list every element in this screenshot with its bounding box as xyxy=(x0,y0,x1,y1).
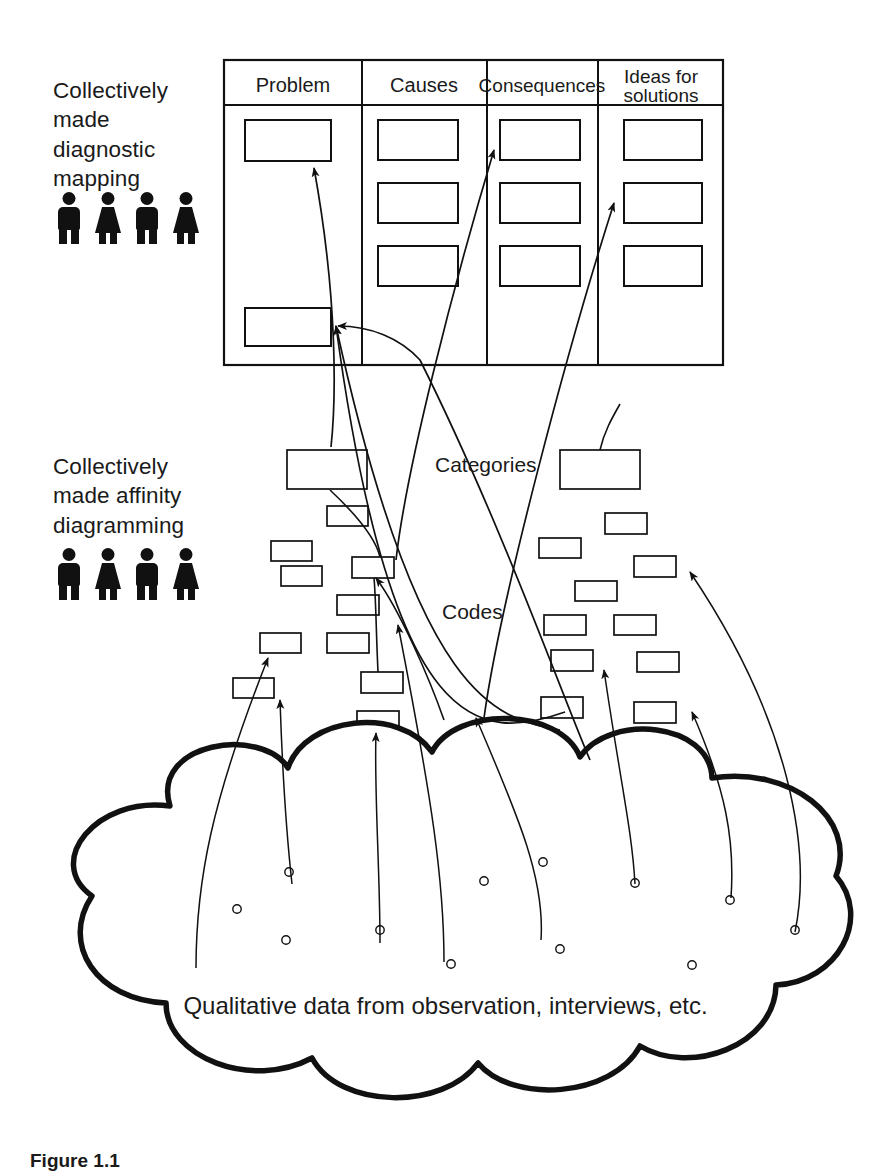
people-group-affinity xyxy=(54,548,201,600)
people-group-diagnostic xyxy=(54,192,201,244)
matrix-header-consequences: Consequences xyxy=(479,75,606,96)
code-box xyxy=(634,702,676,723)
code-box xyxy=(260,633,301,653)
person-icon-man xyxy=(54,192,84,244)
code-box xyxy=(327,633,369,653)
code-box xyxy=(361,672,403,693)
code-box xyxy=(614,615,656,635)
label-collective-affinity-diagramming: Collectively made affinity diagramming xyxy=(53,452,228,540)
code-box xyxy=(634,556,676,577)
matrix-sticky-note xyxy=(500,246,580,286)
code-box xyxy=(352,557,394,578)
person-icon-man xyxy=(54,548,84,600)
person-icon-man xyxy=(132,548,162,600)
code-box xyxy=(337,595,379,615)
person-icon-man xyxy=(132,192,162,244)
category-box xyxy=(560,450,640,489)
code-box xyxy=(281,566,322,586)
matrix-sticky-note xyxy=(378,120,458,160)
matrix-sticky-note xyxy=(500,120,580,160)
qualitative-data-cloud xyxy=(73,718,850,1097)
matrix-sticky-note xyxy=(378,246,458,286)
label-codes: Codes xyxy=(442,600,503,624)
matrix-sticky-note xyxy=(378,183,458,223)
category-box xyxy=(287,450,367,489)
label-categories: Categories xyxy=(435,453,537,477)
matrix-header-ideas-line2: solutions xyxy=(624,85,699,106)
matrix-cell-group xyxy=(245,120,702,346)
code-box xyxy=(539,538,581,558)
person-icon-woman xyxy=(171,548,201,600)
code-box xyxy=(575,581,617,601)
code-box xyxy=(551,650,593,671)
matrix-sticky-note xyxy=(624,120,702,160)
matrix-sticky-note xyxy=(245,120,331,161)
matrix-header-causes: Causes xyxy=(390,74,458,96)
person-icon-woman xyxy=(93,548,123,600)
matrix-sticky-note xyxy=(500,183,580,223)
code-box xyxy=(541,697,583,718)
person-icon-woman xyxy=(171,192,201,244)
code-box xyxy=(637,652,679,672)
code-box xyxy=(544,615,586,635)
matrix-sticky-note xyxy=(624,183,702,223)
label-collective-diagnostic-mapping: Collectively made diagnostic mapping xyxy=(53,76,218,193)
figure-caption: Figure 1.1 xyxy=(30,1150,120,1172)
code-box xyxy=(605,513,647,534)
matrix-header-problem: Problem xyxy=(256,74,330,96)
matrix-header-ideas-line1: Ideas for xyxy=(624,66,699,87)
label-qualitative-data: Qualitative data from observation, inter… xyxy=(0,992,891,1020)
diagnostic-matrix: Problem Causes Consequences Ideas for so… xyxy=(224,60,723,365)
matrix-sticky-note xyxy=(624,246,702,286)
code-box xyxy=(271,541,312,561)
matrix-sticky-note xyxy=(245,308,331,346)
person-icon-woman xyxy=(93,192,123,244)
